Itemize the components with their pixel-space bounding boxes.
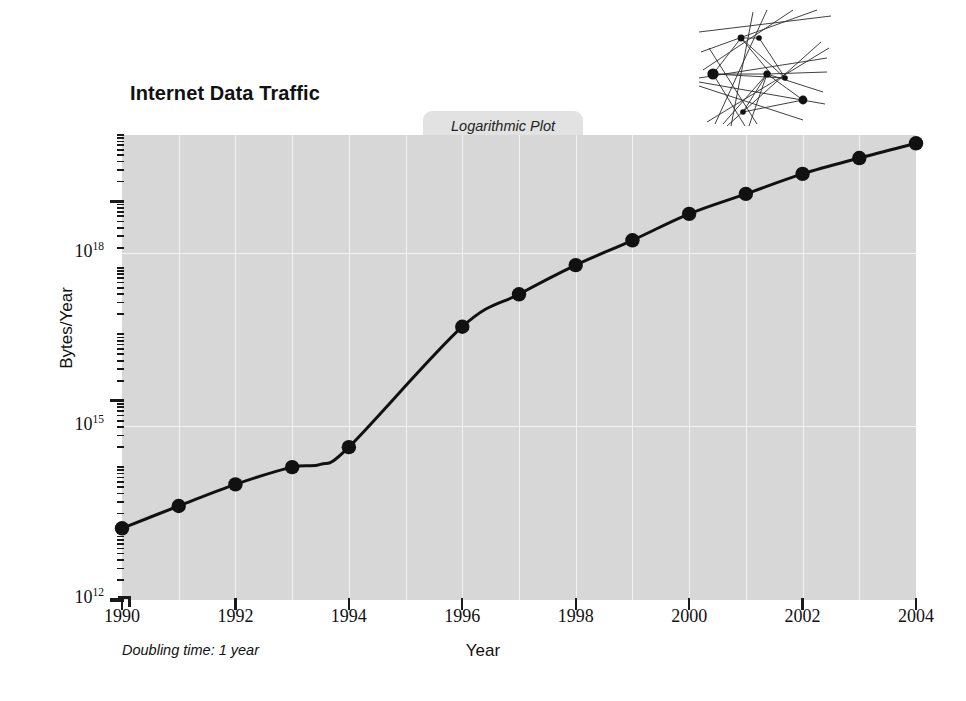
y-axis-minor-tick (117, 353, 124, 355)
y-axis-minor-tick (117, 134, 124, 136)
y-axis-minor-tick (117, 466, 124, 468)
y-axis-minor-tick (117, 380, 124, 382)
y-axis-minor-tick (117, 181, 124, 183)
data-point-marker[interactable] (852, 151, 866, 165)
y-axis-minor-tick (117, 368, 124, 370)
y-axis-minor-tick (117, 481, 124, 483)
y-axis-minor-tick (117, 420, 124, 422)
x-tick-label: 1996 (422, 606, 502, 627)
y-axis-minor-tick (117, 313, 124, 315)
y-axis-minor-tick (117, 137, 124, 139)
y-axis-minor-tick (117, 270, 124, 272)
y-axis-minor-tick (117, 559, 124, 561)
x-tick-label: 2000 (649, 606, 729, 627)
y-axis-minor-tick (117, 553, 124, 555)
x-axis-tick-labels: 19901992199419961998200020022004 (0, 606, 966, 634)
chart-title: Internet Data Traffic (130, 82, 320, 105)
y-axis-minor-tick (117, 579, 124, 581)
y-axis-minor-tick (117, 227, 124, 229)
y-axis-minor-tick (117, 477, 124, 479)
y-axis-minor-tick (117, 337, 124, 339)
y-axis-minor-tick (117, 204, 124, 206)
y-axis-minor-tick (117, 548, 124, 550)
y-axis-minor-tick (117, 154, 124, 156)
y-axis-minor-tick (117, 333, 124, 335)
y-axis-minor-tick (117, 141, 124, 143)
y-axis-minor-tick (117, 273, 124, 275)
y-axis-minor-tick (117, 403, 124, 405)
doubling-time-annotation: Doubling time: 1 year (122, 642, 259, 658)
y-tick-label: 1012 (75, 586, 105, 608)
y-axis-minor-tick (117, 149, 124, 151)
y-axis-minor-tick (117, 415, 124, 417)
y-axis-minor-tick (117, 473, 124, 475)
y-axis-minor-tick (117, 277, 124, 279)
y-axis-minor-tick (117, 406, 124, 408)
y-axis-minor-tick (117, 486, 124, 488)
y-axis-minor-tick (117, 533, 124, 535)
x-tick-label: 2004 (876, 606, 956, 627)
x-tick-label: 1998 (536, 606, 616, 627)
y-axis-minor-tick (117, 469, 124, 471)
y-axis-minor-tick (117, 161, 124, 163)
y-axis-minor-tick (117, 344, 124, 346)
y-axis-minor-tick (117, 287, 124, 289)
y-axis-minor-tick (117, 539, 124, 541)
y-axis-minor-tick (117, 282, 124, 284)
data-series-line (122, 135, 916, 600)
logarithmic-plot-tab-label: Logarithmic Plot (451, 118, 555, 134)
y-axis-minor-tick (117, 435, 124, 437)
y-axis-major-tick (110, 200, 124, 203)
data-point-marker[interactable] (909, 136, 923, 150)
y-axis-minor-tick (117, 144, 124, 146)
y-axis-ticks (108, 130, 124, 608)
y-axis-minor-tick (117, 221, 124, 223)
data-point-marker[interactable] (682, 207, 696, 221)
y-axis-minor-tick (117, 446, 124, 448)
data-point-marker[interactable] (739, 187, 753, 201)
y-axis-minor-tick (117, 536, 124, 538)
y-axis-title: Bytes/Year (57, 258, 77, 398)
y-axis-minor-tick (117, 501, 124, 503)
y-axis-minor-tick (117, 211, 124, 213)
x-tick-label: 1992 (195, 606, 275, 627)
x-tick-label: 1994 (309, 606, 389, 627)
data-point-marker[interactable] (172, 499, 186, 513)
data-point-marker[interactable] (512, 287, 526, 301)
data-point-marker[interactable] (228, 477, 242, 491)
series-line (122, 143, 916, 528)
data-point-marker[interactable] (342, 440, 356, 454)
y-axis-minor-tick (117, 493, 124, 495)
network-nodes-icon (697, 8, 833, 126)
y-axis-minor-tick (117, 267, 124, 269)
x-tick-label: 2002 (763, 606, 843, 627)
y-axis-minor-tick (117, 410, 124, 412)
y-axis-minor-tick (117, 207, 124, 209)
y-axis-minor-tick (117, 302, 124, 304)
x-tick-label: 1990 (82, 606, 162, 627)
y-axis-minor-tick (117, 340, 124, 342)
data-point-marker[interactable] (285, 460, 299, 474)
chart-canvas: Internet Data Traffic Logarithmic Plot 1… (0, 0, 966, 701)
plot-area (122, 135, 916, 600)
y-axis-minor-tick (117, 247, 124, 249)
y-axis-minor-tick (117, 568, 124, 570)
y-axis-minor-tick (117, 235, 124, 237)
y-axis-minor-tick (117, 543, 124, 545)
data-point-marker[interactable] (795, 167, 809, 181)
y-axis-major-tick (110, 399, 124, 402)
y-axis-minor-tick (117, 513, 124, 515)
y-axis-minor-tick (117, 169, 124, 171)
y-tick-label: 1015 (75, 413, 105, 435)
y-axis-minor-tick (117, 293, 124, 295)
y-axis-tick-labels: 1018 1015 1012 (0, 0, 104, 701)
data-point-marker[interactable] (569, 258, 583, 272)
data-point-marker[interactable] (455, 320, 469, 334)
y-axis-minor-tick (117, 215, 124, 217)
data-point-marker[interactable] (625, 233, 639, 247)
y-tick-label: 1018 (75, 240, 105, 262)
y-axis-minor-tick (117, 426, 124, 428)
y-axis-minor-tick (117, 360, 124, 362)
y-axis-minor-tick (117, 348, 124, 350)
